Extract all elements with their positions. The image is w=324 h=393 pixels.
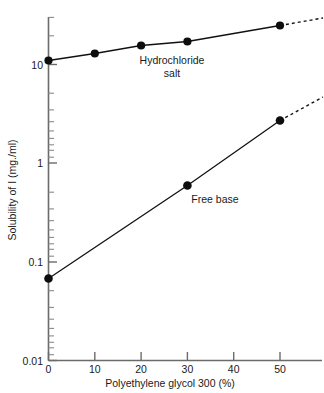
series-free-base-line xyxy=(49,121,281,279)
data-point xyxy=(44,56,52,64)
data-point xyxy=(91,49,99,57)
y-tick-labels: 10 1 0.1 0.01 xyxy=(23,59,44,367)
data-point xyxy=(44,274,53,283)
y-tick-label-0-1: 0.1 xyxy=(28,256,43,268)
data-point xyxy=(276,21,284,29)
series-free-base xyxy=(44,97,323,283)
y-tick-label-10: 10 xyxy=(31,59,43,71)
solubility-chart-figure: 10 1 0.1 0.01 0 10 20 30 40 50 Polyethyl… xyxy=(0,0,324,393)
x-tick-label-50: 50 xyxy=(274,363,286,375)
y-axis-title: Solubility of I (mg./ml) xyxy=(6,140,18,241)
x-tick-label-10: 10 xyxy=(89,363,101,375)
x-axis-title: Polyethylene glycol 300 (%) xyxy=(105,377,235,389)
data-point xyxy=(183,37,191,45)
data-point xyxy=(137,41,145,49)
series-free-base-extrapolation xyxy=(280,97,323,121)
y-axis-ticks xyxy=(49,17,58,360)
x-tick-labels: 0 10 20 30 40 50 xyxy=(46,363,286,375)
y-tick-label-1: 1 xyxy=(37,157,43,169)
data-point xyxy=(183,181,192,190)
x-tick-label-0: 0 xyxy=(46,363,52,375)
series-hcl-extrapolation xyxy=(280,18,323,26)
x-tick-label-20: 20 xyxy=(135,363,147,375)
series-label-hydrochloride-line2: salt xyxy=(164,67,180,79)
chart-canvas: 10 1 0.1 0.01 0 10 20 30 40 50 Polyethyl… xyxy=(0,0,324,393)
y-tick-label-0-01: 0.01 xyxy=(23,355,44,367)
x-tick-label-30: 30 xyxy=(182,363,194,375)
series-label-free-base: Free base xyxy=(191,193,238,205)
series-label-hydrochloride-line1: Hydrochloride xyxy=(140,54,205,66)
x-axis-ticks xyxy=(49,352,281,361)
x-tick-label-40: 40 xyxy=(228,363,240,375)
data-point xyxy=(276,116,285,125)
